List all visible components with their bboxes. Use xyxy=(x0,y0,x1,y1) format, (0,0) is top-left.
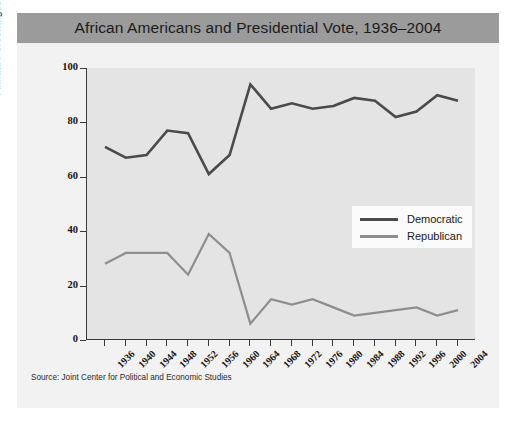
y-tick-label: 100 xyxy=(52,61,78,72)
legend-item-democratic: Democratic xyxy=(360,210,463,228)
x-tick-mark xyxy=(374,340,375,346)
y-tick-label: 20 xyxy=(52,279,78,290)
legend-label-republican: Republican xyxy=(407,230,462,242)
series-line-democratic xyxy=(105,84,458,174)
x-tick-mark xyxy=(208,340,209,346)
legend-swatch-democratic xyxy=(360,218,398,221)
x-tick-mark xyxy=(353,340,354,346)
x-tick-mark xyxy=(436,340,437,346)
series-canvas xyxy=(87,68,476,340)
x-tick-mark xyxy=(457,340,458,346)
x-tick-mark xyxy=(270,340,271,346)
y-tick-mark xyxy=(80,286,86,287)
x-tick-mark xyxy=(125,340,126,346)
legend-swatch-republican xyxy=(360,235,398,238)
y-tick-mark xyxy=(80,340,86,341)
chart-figure: African Americans and Presidential Vote,… xyxy=(0,0,516,427)
x-tick-mark xyxy=(415,340,416,346)
y-tick-label: 60 xyxy=(52,170,78,181)
x-tick-mark xyxy=(312,340,313,346)
y-tick-mark xyxy=(80,68,86,69)
x-tick-mark xyxy=(291,340,292,346)
legend-label-democratic: Democratic xyxy=(407,213,463,225)
y-tick-label: 80 xyxy=(52,115,78,126)
plot-area xyxy=(86,68,475,340)
x-tick-mark xyxy=(166,340,167,346)
y-tick-label: 0 xyxy=(52,333,78,344)
chart-title-bar: African Americans and Presidential Vote,… xyxy=(17,13,499,43)
y-tick-mark xyxy=(80,177,86,178)
y-axis-label: Annual Percentages of African American V… xyxy=(0,0,2,95)
x-tick-mark xyxy=(104,340,105,346)
x-tick-mark xyxy=(187,340,188,346)
x-tick-mark xyxy=(249,340,250,346)
x-tick-mark xyxy=(395,340,396,346)
y-tick-label: 40 xyxy=(52,224,78,235)
legend-item-republican: Republican xyxy=(360,227,462,245)
source-note: Source: Joint Center for Political and E… xyxy=(31,373,232,382)
y-tick-mark xyxy=(80,122,86,123)
x-tick-mark xyxy=(146,340,147,346)
chart-legend: Democratic Republican xyxy=(352,206,472,248)
x-tick-mark xyxy=(332,340,333,346)
page-title: African Americans and Presidential Vote,… xyxy=(75,19,442,37)
x-tick-mark xyxy=(229,340,230,346)
y-tick-mark xyxy=(80,231,86,232)
